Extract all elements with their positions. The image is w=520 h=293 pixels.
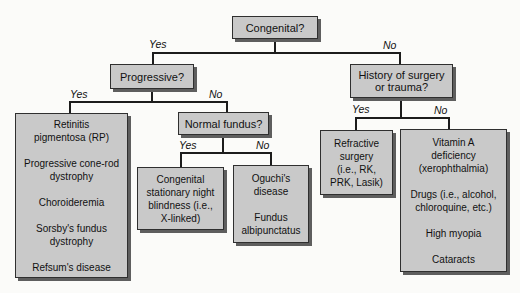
branch-label-history-no: No <box>434 105 447 116</box>
node-history-label: History of surgery or trauma? <box>358 69 444 93</box>
connector-level1-horizontal <box>152 52 401 54</box>
leaf-fundus-no-oguchi: Oguchi's disease Fundus albipunctatus <box>233 165 309 243</box>
branch-label-fundus-no: No <box>256 140 269 151</box>
branch-label-history-yes: Yes <box>352 104 370 115</box>
node-congenital-label: Congenital? <box>246 22 305 34</box>
leaf-progressive-yes-text: Retinitis pigmentosa (RP) Progressive co… <box>24 118 119 274</box>
leaf-history-no-vitamin: Vitamin A deficiency (xerophthalmia) Dru… <box>400 129 507 272</box>
node-normal-fundus: Normal fundus? <box>178 112 269 135</box>
leaf-fundus-yes-text: Congenital stationary night blindness (i… <box>147 173 215 225</box>
leaf-fundus-no-text: Oguchi's disease Fundus albipunctatus <box>242 172 301 237</box>
connector-level2-left-horizontal <box>69 101 228 103</box>
branch-label-fundus-yes: Yes <box>179 140 197 151</box>
connector-yes-to-csnb <box>180 152 182 168</box>
connector-level2-right-horizontal <box>355 117 450 119</box>
branch-label-congenital-yes: Yes <box>149 39 167 50</box>
branch-label-progressive-no: No <box>209 89 222 100</box>
branch-label-congenital-no: No <box>383 40 396 51</box>
leaf-history-no-text: Vitamin A deficiency (xerophthalmia) Dru… <box>410 136 496 266</box>
node-congenital: Congenital? <box>232 16 318 39</box>
decision-tree-diagram: Congenital? Progressive? History of surg… <box>0 0 520 293</box>
leaf-history-yes-refractive: Refractive surgery (i.e., RK, PRK, Lasik… <box>320 130 393 195</box>
connector-congenital-down <box>274 39 276 53</box>
connector-history-down <box>400 97 402 119</box>
leaf-fundus-yes-csnb: Congenital stationary night blindness (i… <box>137 167 224 230</box>
branch-label-progressive-yes: Yes <box>70 89 88 100</box>
node-history-of-surgery: History of surgery or trauma? <box>350 64 453 98</box>
connector-yes-to-refractive <box>355 117 357 131</box>
connector-no-to-oguchi <box>270 152 272 166</box>
node-progressive: Progressive? <box>110 64 194 89</box>
connector-level3-horizontal <box>180 152 272 154</box>
node-progressive-label: Progressive? <box>120 71 184 83</box>
node-normal-fundus-label: Normal fundus? <box>185 118 263 130</box>
leaf-progressive-yes-diseases: Retinitis pigmentosa (RP) Progressive co… <box>15 113 128 278</box>
leaf-history-yes-text: Refractive surgery (i.e., RK, PRK, Lasik… <box>330 137 383 189</box>
